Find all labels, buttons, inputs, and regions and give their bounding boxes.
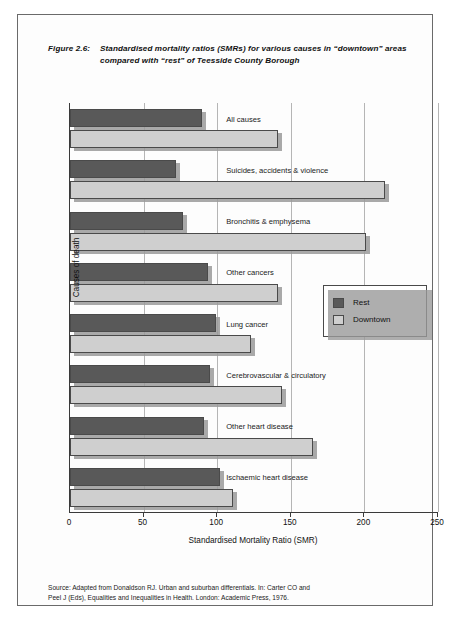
x-tick-label-50: 50 (138, 518, 147, 527)
x-tick-label-0: 0 (67, 518, 72, 527)
category-label: Cerebrovascular & circulatory (226, 371, 326, 381)
bar-group (70, 103, 437, 154)
x-axis-title: Standardised Mortality Ratio (SMR) (69, 536, 437, 545)
bar-downtown[interactable] (70, 181, 385, 199)
gridline-250 (438, 103, 439, 512)
source-note: Source: Adapted from Donaldson RJ. Urban… (48, 583, 423, 603)
category-label: Lung cancer (226, 320, 268, 330)
bar-rest[interactable] (70, 365, 210, 383)
bar-rest[interactable] (70, 314, 216, 332)
source-line-1: Source: Adapted from Donaldson RJ. Urban… (48, 583, 423, 593)
legend-swatch-rest (333, 298, 344, 308)
bar-downtown[interactable] (70, 489, 233, 507)
legend-label: Rest (353, 298, 369, 307)
x-axis-tick-labels: 050100150200250 (69, 518, 437, 532)
bar-wrapper (70, 489, 437, 507)
x-tick-mark-200 (363, 512, 364, 517)
bar-downtown[interactable] (70, 284, 278, 302)
x-tick-label-100: 100 (209, 518, 223, 527)
bar-downtown[interactable] (70, 335, 251, 353)
bar-wrapper (70, 386, 437, 404)
x-tick-mark-100 (216, 512, 217, 517)
x-tick-label-250: 250 (430, 518, 444, 527)
legend-swatch-downtown (333, 315, 344, 325)
figure-title: Figure 2.6: Standardised mortality ratio… (48, 43, 438, 66)
category-label: Suicides, accidents & violence (226, 166, 328, 176)
bar-rest[interactable] (70, 468, 220, 486)
bar-wrapper (70, 233, 437, 251)
bar-group (70, 154, 437, 205)
bar-rest[interactable] (70, 212, 183, 230)
category-label: Other heart disease (226, 422, 293, 432)
x-tick-label-200: 200 (357, 518, 371, 527)
bar-wrapper (70, 130, 437, 148)
figure-number: Figure 2.6: (48, 43, 90, 66)
figure-title-text: Standardised mortality ratios (SMRs) for… (100, 43, 438, 66)
bar-wrapper (70, 181, 437, 199)
bar-downtown[interactable] (70, 386, 282, 404)
bar-group (70, 206, 437, 257)
figure-frame: Figure 2.6: Standardised mortality ratio… (17, 14, 433, 606)
bar-group (70, 359, 437, 410)
y-axis-title: Causes of death (72, 208, 81, 328)
bar-downtown[interactable] (70, 130, 278, 148)
bar-rest[interactable] (70, 160, 176, 178)
x-tick-mark-150 (290, 512, 291, 517)
bar-downtown[interactable] (70, 438, 313, 456)
legend-item-rest[interactable]: Rest (333, 294, 417, 311)
bar-rest[interactable] (70, 263, 208, 281)
bar-rest[interactable] (70, 417, 204, 435)
legend-item-downtown[interactable]: Downtown (333, 311, 417, 328)
x-tick-label-150: 150 (283, 518, 297, 527)
source-line-2: Peel J (Eds), Equalities and Inequalitie… (48, 593, 423, 603)
bar-wrapper (70, 438, 437, 456)
category-label: Ischaemic heart disease (226, 473, 308, 483)
x-tick-mark-50 (143, 512, 144, 517)
bar-downtown[interactable] (70, 233, 366, 251)
x-tick-mark-250 (437, 512, 438, 517)
legend-label: Downtown (353, 315, 390, 324)
bar-group (70, 462, 437, 513)
category-label: All causes (226, 115, 261, 125)
bar-rest[interactable] (70, 109, 202, 127)
chart-legend: RestDowntown (323, 285, 427, 337)
bar-group (70, 411, 437, 462)
category-label: Bronchitis & emphysema (226, 217, 310, 227)
category-label: Other cancers (226, 268, 274, 278)
